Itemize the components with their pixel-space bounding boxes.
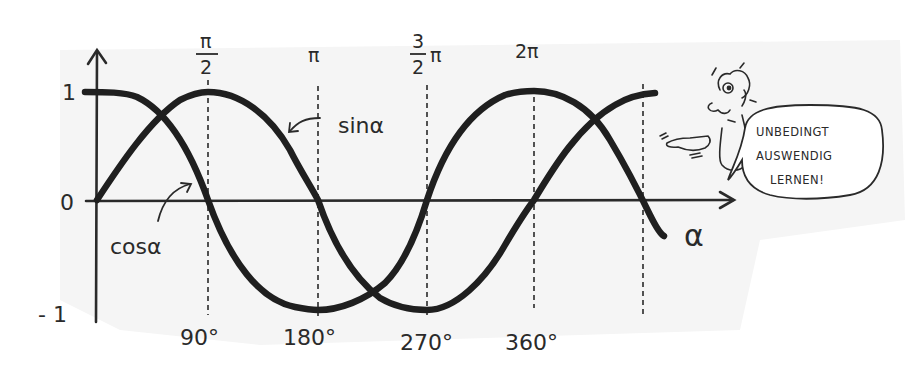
x-axis-label-alpha: α: [684, 218, 704, 253]
three-half-numerator: 3: [412, 30, 424, 52]
pi-half-numerator: π: [200, 30, 211, 52]
pi-half-denominator: 2: [200, 56, 212, 78]
degree-label-180: 180°: [283, 325, 336, 350]
bubble-line-3: LERNEN!: [770, 173, 824, 187]
sin-label: sinα: [338, 113, 384, 138]
three-half-denominator: 2: [412, 56, 424, 78]
three-half-pi-symbol: π: [430, 44, 441, 66]
degree-label-360: 360°: [505, 330, 558, 355]
sine-cosine-diagram: 1 0 - 1 π 2 π 3 2 π 2π 90° 180° 270° 360…: [0, 0, 915, 374]
cos-label: cosα: [110, 234, 162, 259]
diagram-canvas: 1 0 - 1 π 2 π 3 2 π 2π 90° 180° 270° 360…: [0, 0, 915, 374]
y-tick-minus-1: - 1: [38, 302, 67, 327]
degree-label-270: 270°: [400, 330, 453, 355]
bubble-line-1: UNBEDINGT: [756, 125, 830, 139]
y-tick-1: 1: [62, 80, 76, 105]
radian-label-pi: π: [308, 44, 319, 66]
bubble-line-2: AUSWENDIG: [756, 149, 832, 163]
x-axis: [86, 200, 733, 201]
y-tick-0: 0: [60, 190, 74, 215]
degree-label-90: 90°: [180, 325, 219, 350]
radian-label-two-pi: 2π: [515, 40, 539, 62]
